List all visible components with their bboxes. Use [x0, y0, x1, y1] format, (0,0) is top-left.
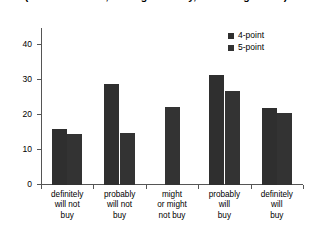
bar [120, 133, 135, 185]
x-tick [41, 185, 42, 189]
x-category-label-line: definitely [51, 190, 83, 200]
x-category-label-line: will [209, 200, 240, 210]
x-category-label-line: probably [104, 190, 135, 200]
x-tick [251, 185, 252, 189]
bar [52, 129, 67, 185]
y-tick-label: 40 [23, 39, 32, 49]
x-category-label-line: buy [51, 211, 83, 221]
x-category-label-line: will [261, 200, 293, 210]
x-tick [93, 185, 94, 189]
plot-area: 010203040 [41, 28, 303, 185]
x-category-label-line: will not [104, 200, 135, 210]
x-category-label-line: will not [51, 200, 83, 210]
x-category-label: definitelywill notbuy [51, 190, 83, 221]
x-category-label-line: probably [209, 190, 240, 200]
bar [165, 107, 180, 186]
bar [225, 91, 240, 185]
x-axis-category-labels: definitelywill notbuyprobablywill notbuy… [41, 190, 303, 233]
x-category-label: mightor mightnot buy [157, 190, 187, 221]
y-tick-label: 30 [23, 74, 32, 84]
x-category-label-line: buy [261, 211, 293, 221]
chart-title: (new toothbrush, flashlight battery, ele… [0, 0, 312, 2]
chart-title-line-1: (new toothbrush, flashlight battery, ele… [0, 0, 312, 2]
y-tick-label: 20 [23, 109, 32, 119]
x-category-label-line: definitely [261, 190, 293, 200]
y-tick-label: 0 [27, 179, 32, 189]
x-category-label-line: not buy [157, 211, 187, 221]
bar [277, 113, 292, 185]
bar [209, 75, 224, 185]
bar [104, 84, 119, 185]
x-category-label-line: might [157, 190, 187, 200]
x-category-label: probablywillbuy [209, 190, 240, 221]
y-tick-label: 10 [23, 144, 32, 154]
bar-chart: (new toothbrush, flashlight battery, ele… [0, 0, 312, 233]
bar-series-group [41, 28, 303, 185]
x-category-label-line: buy [209, 211, 240, 221]
x-category-label: probablywill notbuy [104, 190, 135, 221]
bar [67, 134, 82, 185]
x-tick [146, 185, 147, 189]
x-category-label-line: or might [157, 200, 187, 210]
x-tick [303, 185, 304, 189]
x-category-label-line: buy [104, 211, 135, 221]
x-tick [198, 185, 199, 189]
bar [262, 108, 277, 185]
x-category-label: definitelywillbuy [261, 190, 293, 221]
